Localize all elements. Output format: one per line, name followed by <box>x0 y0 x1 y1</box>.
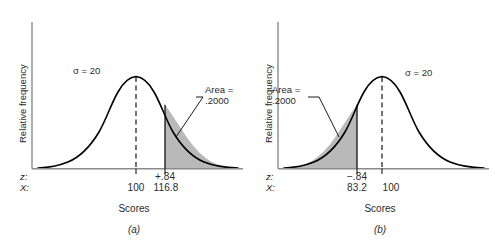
y-axis-label: Relative frequency <box>17 64 28 143</box>
x-tick-label-mean: 100 <box>128 182 145 193</box>
panel-caption: (b) <box>374 224 386 235</box>
x-axis-title: Scores <box>364 203 395 214</box>
sigma-annotation: σ = 20 <box>405 67 432 78</box>
x-tick-label-mean: 100 <box>383 182 400 193</box>
x-axis-key: X: <box>266 182 275 193</box>
z-axis-key: z: <box>20 171 27 182</box>
sigma-annotation: σ = 20 <box>73 65 100 76</box>
panel-b: Relative frequency σ = 20 Area = .2000 z… <box>251 0 502 240</box>
area-annotation-line1: Area = <box>205 84 233 95</box>
area-leader-line <box>308 97 339 137</box>
x-tick-label-cutoff: 83.2 <box>347 182 367 193</box>
z-tick-label-cutoff: −.84 <box>347 171 367 182</box>
z-axis-key: z: <box>266 171 273 182</box>
z-tick-label-cutoff: +.84 <box>155 171 175 182</box>
panel-caption: (a) <box>128 224 140 235</box>
area-annotation-line2: .2000 <box>272 95 300 106</box>
normal-curve <box>284 77 484 169</box>
area-annotation-line1: Area = <box>272 84 300 95</box>
area-annotation: Area = .2000 <box>272 84 300 106</box>
panel-a: Relative frequency σ = 20 Area = .2000 z… <box>0 0 251 240</box>
figure-normal-distributions: Relative frequency σ = 20 Area = .2000 z… <box>0 0 502 240</box>
area-leader-line <box>176 97 203 137</box>
area-annotation: Area = .2000 <box>205 84 233 106</box>
area-annotation-line2: .2000 <box>205 95 233 106</box>
x-tick-label-cutoff: 116.8 <box>154 182 179 193</box>
x-axis-title: Scores <box>118 203 149 214</box>
x-axis-key: X: <box>20 182 29 193</box>
